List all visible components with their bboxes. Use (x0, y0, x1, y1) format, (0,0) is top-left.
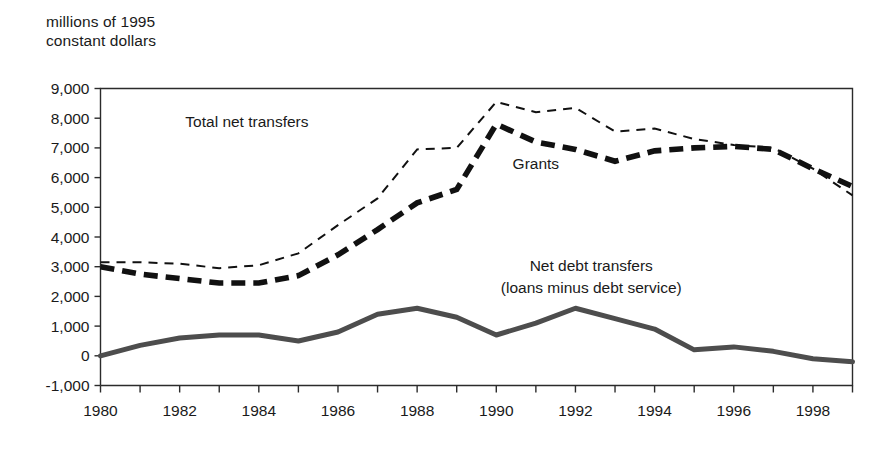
x-tick-label: 1996 (717, 402, 751, 419)
x-axis-tick-labels: 1980198219841986198819901992199419961998 (83, 402, 830, 419)
series-sublabel-3: (loans minus debt service) (501, 279, 682, 296)
x-tick-label: 1998 (796, 402, 830, 419)
x-tick-label: 1986 (321, 402, 355, 419)
y-tick-label: 9,000 (51, 80, 90, 97)
data-series-group (101, 102, 853, 362)
x-tick-label: 1988 (400, 402, 434, 419)
y-axis-ticks (95, 89, 101, 386)
x-tick-label: 1984 (242, 402, 277, 419)
series-label-3: Net debt transfers (530, 257, 653, 274)
y-tick-label: 1,000 (51, 318, 90, 335)
y-tick-label: -1,000 (46, 377, 90, 394)
series-line-2 (101, 124, 853, 283)
y-tick-label: 4,000 (51, 229, 90, 246)
x-axis-ticks (101, 386, 853, 393)
y-axis-title: millions of 1995 constant dollars (46, 12, 156, 50)
x-tick-label: 1992 (558, 402, 592, 419)
series-annotations: Total net transfersGrantsNet debt transf… (185, 113, 681, 296)
x-tick-label: 1980 (83, 402, 118, 419)
series-label-1: Total net transfers (185, 113, 308, 130)
y-tick-label: 7,000 (51, 139, 90, 156)
line-chart-canvas: 9,0008,0007,0006,0005,0004,0003,0002,000… (0, 0, 877, 453)
y-tick-label: 2,000 (51, 288, 90, 305)
y-tick-label: 3,000 (51, 258, 90, 275)
series-line-3 (101, 308, 853, 361)
chart-figure: millions of 1995 constant dollars 9,0008… (0, 0, 877, 453)
y-axis-tick-labels: 9,0008,0007,0006,0005,0004,0003,0002,000… (46, 80, 90, 394)
y-tick-label: 8,000 (51, 110, 90, 127)
series-label-2: Grants (513, 155, 560, 172)
plot-frame (101, 89, 853, 386)
x-tick-label: 1994 (637, 402, 672, 419)
x-tick-label: 1982 (162, 402, 196, 419)
y-tick-label: 6,000 (51, 169, 90, 186)
x-tick-label: 1990 (479, 402, 514, 419)
y-tick-label: 5,000 (51, 199, 90, 216)
y-tick-label: 0 (81, 347, 90, 364)
